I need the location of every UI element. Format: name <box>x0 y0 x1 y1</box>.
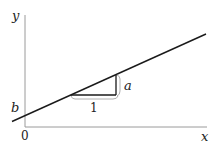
x-axis-label: x <box>201 129 209 144</box>
diagram-svg: y x 0 b a 1 <box>0 0 221 149</box>
intercept-label: b <box>11 100 19 115</box>
linear-function-diagram: y x 0 b a 1 <box>0 0 221 149</box>
rise-label: a <box>124 78 132 93</box>
run-bracket <box>71 96 118 99</box>
origin-label: 0 <box>21 129 29 143</box>
rise-bracket <box>117 75 120 96</box>
run-label: 1 <box>90 101 98 115</box>
y-axis-label: y <box>11 8 20 23</box>
function-line <box>12 34 206 122</box>
